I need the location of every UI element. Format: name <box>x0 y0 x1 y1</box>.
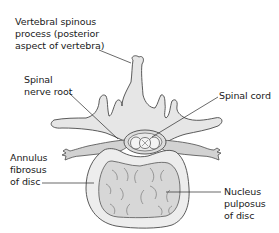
label-line: Nucleus <box>224 186 266 198</box>
label-line: Spinal cord <box>219 90 271 102</box>
label-line: fibrosus <box>10 164 47 176</box>
label-spinous-process: Vertebral spinous process (posterior asp… <box>15 16 104 52</box>
label-line: process (posterior <box>15 28 104 40</box>
label-line: of disc <box>224 210 266 222</box>
label-line: aspect of vertebra) <box>15 40 104 52</box>
label-line: pulposus <box>224 198 266 210</box>
label-annulus-fibrosus: Annulus fibrosus of disc <box>10 152 47 188</box>
label-line: Annulus <box>10 152 47 164</box>
label-spinal-cord: Spinal cord <box>219 90 271 102</box>
label-line: of disc <box>10 176 47 188</box>
label-nucleus-pulposus: Nucleus pulposus of disc <box>224 186 266 222</box>
nucleus-pulposus <box>99 161 180 218</box>
vertebra-disc-diagram: Vertebral spinous process (posterior asp… <box>0 0 279 233</box>
label-line: Vertebral spinous <box>15 16 104 28</box>
label-spinal-nerve-root: Spinal nerve root <box>24 74 72 98</box>
vertebral-arch <box>51 56 222 143</box>
label-line: Spinal <box>24 74 72 86</box>
label-line: nerve root <box>24 86 72 98</box>
spinal-cord <box>131 137 160 149</box>
